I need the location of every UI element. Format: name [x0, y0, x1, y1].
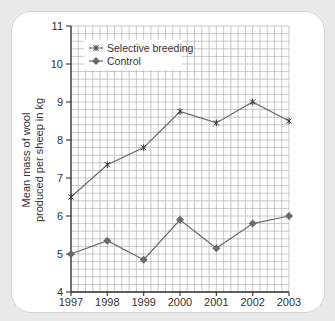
x-tick-label: 2002: [240, 296, 264, 308]
legend-label: Control: [107, 55, 141, 67]
x-axis-ticks: 1997199819992000200120022003: [59, 292, 301, 308]
star-marker-icon: [68, 194, 73, 200]
y-tick-label: 11: [52, 20, 63, 32]
diamond-marker-icon: [103, 237, 111, 245]
line-chart: 4567891011 1997199819992000200120022003 …: [0, 0, 335, 321]
x-tick-label: 2003: [277, 296, 301, 308]
y-tick-label: 7: [57, 172, 63, 184]
x-tick-label: 2001: [204, 296, 228, 308]
diamond-marker-icon: [285, 212, 293, 220]
x-tick-label: 1999: [131, 296, 155, 308]
y-tick-label: 6: [57, 210, 63, 222]
diamond-marker-icon: [249, 220, 257, 228]
y-tick-label: 8: [57, 134, 63, 146]
x-tick-label: 1997: [59, 296, 83, 308]
y-axis-title: Mean mass of woolproduced per sheep in k…: [20, 98, 45, 222]
x-tick-label: 1998: [95, 296, 119, 308]
x-tick-label: 2000: [168, 296, 192, 308]
star-marker-icon: [105, 162, 110, 168]
chart-legend: Selective breedingControl: [84, 40, 194, 70]
y-axis-title-line: produced per sheep in kg: [33, 98, 45, 222]
y-axis-label: Mean mass of woolproduced per sheep in k…: [20, 98, 45, 222]
diamond-marker-icon: [67, 250, 75, 258]
y-tick-label: 5: [57, 248, 63, 260]
y-tick-label: 10: [51, 58, 63, 70]
y-axis-ticks: 4567891011: [51, 20, 71, 298]
y-axis-title-line: Mean mass of wool: [20, 113, 32, 208]
star-marker-icon: [286, 118, 291, 124]
y-tick-label: 9: [57, 96, 63, 108]
legend-label: Selective breeding: [107, 42, 194, 54]
